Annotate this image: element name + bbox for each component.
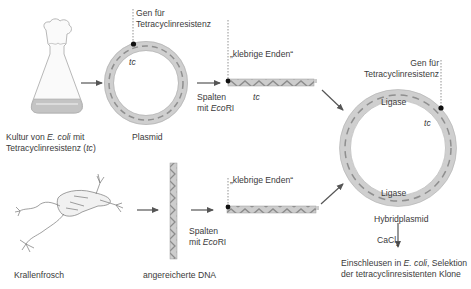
frog-illustration: [15, 174, 123, 252]
frog-label: Krallenfrosch: [14, 270, 64, 281]
culture-label: Kultur von E. coli mit Tetracyclinresist…: [6, 132, 96, 153]
transformation-label: Einschleusen in E. coli, Selektion der t…: [341, 258, 467, 279]
cut-plasmid-tc-marker: tc: [253, 92, 260, 103]
enriched-dna-strand: [170, 163, 177, 259]
plasmid-gene-label: Gen für Tetracyclinresistenz: [136, 8, 211, 29]
dna-label: angereicherte DNA: [143, 270, 216, 281]
step-cut-bottom-label: Spalten mit EcoRI: [189, 226, 226, 247]
plasmid-tc-marker: tc: [129, 57, 136, 68]
cacl2-label: CaCl2: [377, 235, 399, 249]
sticky-end-dot-top: [226, 79, 231, 84]
plasmid-label: Plasmid: [132, 132, 163, 143]
flask-icon: [31, 19, 82, 113]
gene-marker-dot: [131, 41, 136, 46]
hybrid-gene-label: Gen für Tetracyclinresistenz: [360, 58, 439, 79]
ligase-bottom-label: Ligase: [381, 188, 406, 199]
hybrid-plasmid-label: Hybridplasmid: [374, 214, 428, 225]
sticky-ends-label-bottom: „klebrige Enden“: [230, 175, 293, 186]
plasmid-ring: [105, 42, 188, 125]
sticky-ends-label-top: „klebrige Enden“: [230, 49, 293, 60]
hybrid-tc-marker: tc: [424, 118, 431, 129]
linear-plasmid-dna: [228, 79, 317, 86]
ligase-top-label: Ligase: [381, 97, 406, 108]
step-cut-top-label: Spalten mit EcoRI: [197, 92, 234, 113]
hybrid-gene-marker-dot: [438, 105, 443, 110]
arrow-cut-plasmid-to-hybrid: [322, 90, 343, 110]
linear-frog-dna: [227, 206, 319, 213]
sticky-end-dot-bottom: [226, 205, 231, 210]
arrow-cut-dna-to-hybrid: [321, 184, 343, 204]
